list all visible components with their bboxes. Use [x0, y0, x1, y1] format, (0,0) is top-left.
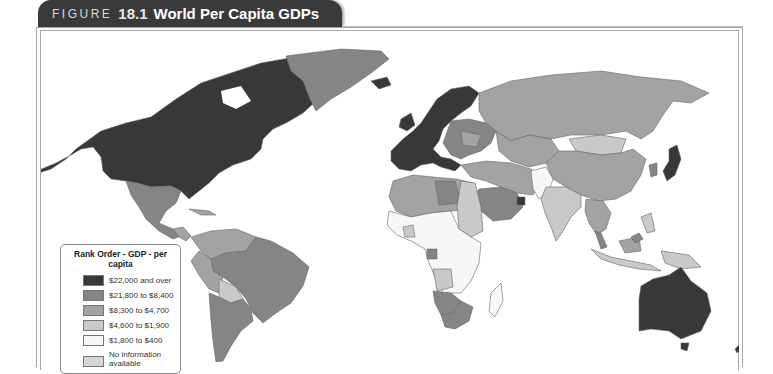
region-mexico — [126, 181, 181, 239]
legend-item: $4,600 to $1,900 — [83, 320, 180, 331]
legend-label: $22,000 and over — [109, 275, 171, 286]
region-angola — [433, 269, 453, 291]
legend-title: Rank Order - GDP - per capita — [61, 249, 180, 269]
legend-swatch — [83, 320, 104, 331]
region-japan — [663, 145, 681, 181]
legend-swatch — [83, 290, 104, 301]
legend-label: No information available — [109, 350, 169, 368]
region-new-zealand — [735, 323, 739, 353]
region-australia — [639, 267, 711, 339]
region-russia — [479, 71, 709, 141]
legend-item: $8,300 to $4,700 — [83, 305, 180, 316]
legend-item: $22,000 and over — [83, 275, 180, 286]
legend-item: $21,800 to $8,400 — [83, 290, 180, 301]
legend-label: $8,300 to $4,700 — [109, 305, 169, 316]
legend-swatch — [83, 305, 104, 316]
region-southeast-asia — [585, 199, 611, 235]
legend-item: $1,800 to $400 — [83, 335, 180, 346]
figure-number: 18.1 — [118, 5, 147, 22]
legend-label: $21,800 to $8,400 — [109, 290, 174, 301]
figure-title: World Per Capita GDPs — [154, 5, 320, 22]
legend-swatch — [83, 335, 104, 346]
figure-header-tab: FIGURE 18.1 World Per Capita GDPs — [38, 0, 342, 27]
region-india — [541, 187, 581, 241]
legend-label: $4,600 to $1,900 — [109, 320, 169, 331]
region-argentina-chile — [209, 293, 253, 362]
legend-label: $1,800 to $400 — [109, 335, 162, 346]
map-legend: Rank Order - GDP - per capita $22,000 an… — [60, 244, 181, 374]
region-madagascar — [489, 283, 503, 317]
figure-label: FIGURE — [52, 7, 112, 21]
legend-swatch — [83, 356, 104, 367]
legend-swatch — [83, 275, 104, 286]
region-uk — [399, 113, 415, 131]
legend-item: No information available — [83, 350, 180, 368]
